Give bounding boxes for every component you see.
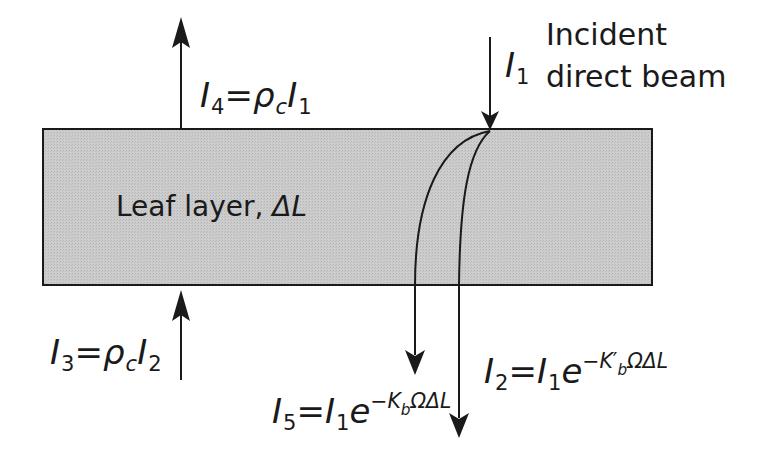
- I1-label: I1: [505, 48, 529, 82]
- exp-rest: ΩΔL: [411, 389, 452, 413]
- leaf-layer-text: Leaf layer,: [116, 190, 272, 223]
- upward-below-arrow: [172, 290, 190, 380]
- I2-var: I: [484, 351, 494, 391]
- leaf-layer-radiation-diagram: Leaf layer, ΔL Incident direct beam I1 I…: [0, 0, 766, 467]
- exp-K: K: [599, 349, 612, 373]
- I2-rhs-sub: 1: [548, 370, 561, 395]
- I1-var: I: [505, 45, 515, 85]
- exp-minus: −: [370, 389, 387, 413]
- I2-equation: I2=I1e−K′bΩΔL: [484, 354, 668, 388]
- I2-rhs-var: I: [537, 351, 547, 391]
- exp-rest: ΩΔL: [627, 349, 668, 373]
- I5-exponent: −KbΩΔL: [370, 389, 451, 413]
- I4-equation: I4=ρcI1: [200, 78, 312, 112]
- I3-sub: 3: [61, 351, 74, 376]
- I3-var: I: [50, 332, 60, 372]
- equals-sign: =: [74, 332, 103, 372]
- equals-sign: =: [224, 75, 253, 115]
- I3-rhs-var: I: [137, 332, 147, 372]
- delta-l-symbol: ΔL: [272, 190, 307, 223]
- exp-base: e: [561, 351, 582, 391]
- exp-K-sub: b: [401, 401, 411, 419]
- I5-var: I: [272, 391, 282, 431]
- I4-sub: 4: [211, 94, 224, 119]
- rho-sub: c: [276, 94, 288, 119]
- I2-exponent: −K′bΩΔL: [582, 349, 668, 373]
- equals-sign: =: [508, 351, 537, 391]
- leaf-layer-label: Leaf layer, ΔL: [116, 193, 307, 221]
- I5-rhs-sub: 1: [336, 410, 349, 435]
- incident-label-line1: Incident: [546, 20, 667, 50]
- I4-var: I: [200, 75, 210, 115]
- I4-rhs-var: I: [287, 75, 297, 115]
- rho-symbol: ρ: [253, 75, 275, 115]
- exp-K: K: [387, 389, 400, 413]
- I5-rhs-var: I: [325, 391, 335, 431]
- exp-K-sub: b: [617, 361, 627, 379]
- incident-beam-arrow: [481, 37, 499, 130]
- equals-sign: =: [296, 391, 325, 431]
- I4-rhs-sub: 1: [298, 94, 311, 119]
- I1-sub: 1: [516, 64, 529, 89]
- I5-sub: 5: [283, 410, 296, 435]
- rho-sub: c: [126, 351, 138, 376]
- I5-equation: I5=I1e−KbΩΔL: [272, 394, 451, 428]
- exp-base: e: [349, 391, 370, 431]
- I3-equation: I3=ρcI2: [50, 335, 162, 369]
- incident-label-line2: direct beam: [546, 62, 726, 92]
- I3-rhs-sub: 2: [148, 351, 161, 376]
- rho-symbol: ρ: [103, 332, 125, 372]
- I2-sub: 2: [495, 370, 508, 395]
- reflected-up-arrow: [172, 17, 190, 129]
- exp-minus: −: [582, 349, 599, 373]
